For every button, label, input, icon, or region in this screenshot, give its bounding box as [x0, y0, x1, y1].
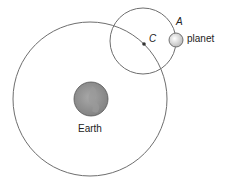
epicycle-orbit	[110, 8, 176, 74]
earth-icon	[74, 82, 108, 116]
label-point-a: A	[175, 16, 183, 27]
planet-icon	[169, 33, 183, 47]
label-planet: planet	[187, 33, 214, 44]
epicycle-center-point	[142, 42, 146, 46]
label-point-c: C	[149, 33, 157, 44]
label-earth: Earth	[78, 123, 102, 134]
epicycle-diagram: A C planet Earth	[0, 0, 227, 187]
